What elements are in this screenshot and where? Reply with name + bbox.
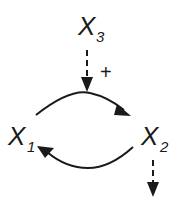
- node-x3-label: X: [77, 11, 97, 41]
- node-x1-label: X: [7, 121, 27, 151]
- arc-lower: [47, 147, 133, 168]
- node-x2-subscript: 2: [159, 138, 169, 155]
- node-x1: X 1: [7, 121, 35, 155]
- node-x3: X 3: [77, 11, 105, 45]
- edge-x2-output: [147, 160, 159, 197]
- arc-upper: [36, 92, 124, 115]
- node-x2-label: X: [140, 121, 160, 151]
- edge-x3-influence: +: [81, 50, 112, 92]
- node-x1-subscript: 1: [27, 138, 35, 155]
- arrowhead-icon: [114, 104, 131, 116]
- arrowhead-icon: [147, 182, 159, 197]
- sign-plus: +: [100, 61, 112, 83]
- arrowhead-icon: [81, 77, 93, 92]
- edge-x1-to-x2: [36, 92, 131, 116]
- causal-diagram: X 3 + X 1 X 2: [0, 0, 178, 211]
- edge-x2-to-x1: [37, 146, 133, 168]
- node-x3-subscript: 3: [96, 28, 105, 45]
- node-x2: X 2: [140, 121, 169, 155]
